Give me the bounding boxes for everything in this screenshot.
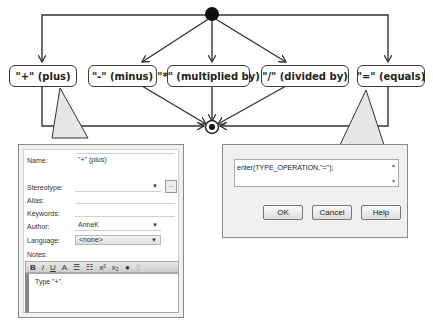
author-label: Author: [27,223,50,230]
subscript-button[interactable]: x₂ [112,263,119,272]
scroll-down-icon[interactable]: ▼ [391,178,396,184]
chevron-down-icon: ▼ [152,182,158,190]
action-node-divide[interactable]: "/" (divided by) [261,65,349,87]
notes-editor[interactable]: Type "+". [25,273,179,313]
notes-label: Notes: [27,251,47,258]
initial-node-icon [205,7,219,21]
language-select[interactable]: <none> ▼ [75,235,161,245]
underline-button[interactable]: U [50,263,56,272]
guard-dialog: enter(TYPE_OPERATION,"="); ▲ ▼ OK Cancel… [222,144,408,238]
superscript-button[interactable]: x² [99,263,106,272]
chevron-down-icon: ▼ [152,221,158,229]
stereotype-browse-button[interactable]: ... [165,180,177,193]
keywords-field[interactable] [75,208,175,217]
action-node-multiply[interactable]: "*" (multiplied by) [167,65,250,87]
action-node-plus[interactable]: "+" (plus) [9,65,77,87]
numbered-list-icon[interactable]: ☷ [86,263,93,272]
language-label: Language: [27,237,60,244]
notes-toolbar: B I U A ☰ ☷ x² x₂ ● ▯ [25,261,179,273]
author-select[interactable]: AnneK ▼ [75,221,161,231]
stereotype-label: Stereotype: [27,184,63,191]
cancel-button[interactable]: Cancel [312,205,352,220]
alias-label: Alias: [27,197,44,204]
help-button[interactable]: Help [361,205,401,220]
bold-button[interactable]: B [30,263,36,272]
name-field[interactable]: "+" (plus) [75,155,175,164]
guard-expression-box[interactable]: enter(TYPE_OPERATION,"="); ▲ ▼ [234,159,399,187]
disabled-tool-icon: ▯ [136,263,140,272]
chevron-down-icon: ▼ [151,236,157,244]
keywords-label: Keywords: [27,210,60,217]
properties-panel: Name: "+" (plus) Stereotype: ▼ ... Alias… [18,144,184,318]
action-node-minus[interactable]: "-" (minus) [88,65,157,87]
hyperlink-icon[interactable]: ● [125,263,130,272]
alias-field[interactable] [75,195,175,204]
font-color-button[interactable]: A [62,263,67,272]
ok-button[interactable]: OK [263,205,303,220]
action-node-equals[interactable]: "=" (equals) [357,65,425,87]
stereotype-select[interactable]: ▼ [75,182,161,192]
italic-button[interactable]: I [42,263,44,272]
bullet-list-icon[interactable]: ☰ [73,263,80,272]
scroll-up-icon[interactable]: ▲ [391,162,396,168]
name-label: Name: [27,157,48,164]
guard-expression: enter(TYPE_OPERATION,"="); [237,164,333,171]
